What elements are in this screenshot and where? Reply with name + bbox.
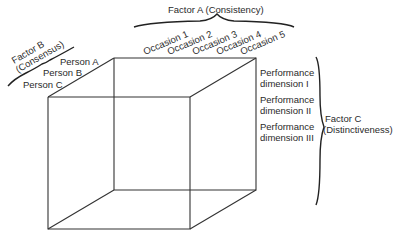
factor-a-title: Factor A (Consistency) — [168, 4, 264, 15]
factor-c-title: Factor C (Distinctiveness) — [323, 113, 393, 135]
cube — [48, 58, 256, 229]
cube-diagram: Occasion 1 Occasion 2 Occasion 3 Occasio… — [0, 0, 396, 239]
dimension-label-line2: dimension I — [260, 78, 309, 89]
dimension-label-line1: Performance — [260, 121, 314, 132]
occasion-labels: Occasion 1 Occasion 2 Occasion 3 Occasio… — [141, 28, 286, 57]
cube-front-face — [48, 97, 190, 229]
cube-back-face — [114, 58, 256, 190]
factor-c-title-line2: (Distinctiveness) — [323, 124, 393, 135]
factor-a-brace — [134, 14, 294, 27]
person-label: Person C — [23, 79, 63, 90]
dimension-label-line1: Performance — [260, 67, 314, 78]
dimension-label-line2: dimension III — [260, 132, 314, 143]
cube-edge-bottom-left — [48, 190, 114, 229]
factor-c-title-line1: Factor C — [325, 113, 362, 124]
person-label: Person B — [43, 67, 82, 78]
cube-edge-top-right — [190, 58, 256, 97]
person-label: Person A — [60, 56, 99, 67]
dimension-labels: Performance dimension I Performance dime… — [260, 67, 314, 143]
cube-edge-bottom-right — [190, 190, 256, 229]
dimension-label-line2: dimension II — [260, 105, 311, 116]
dimension-label-line1: Performance — [260, 94, 314, 105]
